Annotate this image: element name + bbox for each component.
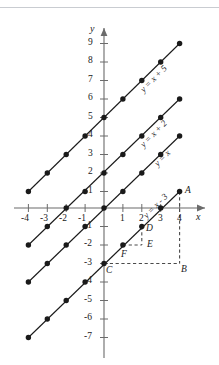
y-tick--2: -2 <box>84 239 92 249</box>
point-label-E: E <box>147 240 153 250</box>
coordinate-plane <box>0 0 219 365</box>
x-tick-4: 4 <box>177 214 182 224</box>
point-label-D: D <box>146 224 153 234</box>
point-label-C: C <box>106 266 112 276</box>
y-tick-6: 6 <box>88 93 93 103</box>
x-tick--4: -4 <box>21 214 29 224</box>
y-tick-1: 1 <box>88 186 93 196</box>
x-tick-1: 1 <box>120 214 125 224</box>
point-label-B: B <box>181 265 187 275</box>
y-tick-5: 5 <box>88 112 93 122</box>
y-axis-arrow <box>101 28 108 36</box>
x-axis-label: x <box>196 212 200 222</box>
x-tick-3: 3 <box>158 214 163 224</box>
point-label-F: F <box>121 250 127 260</box>
x-tick--2: -2 <box>59 214 67 224</box>
y-tick--1: -1 <box>84 221 92 231</box>
y-tick--7: -7 <box>84 332 92 342</box>
y-tick-9: 9 <box>88 38 93 48</box>
y-tick--4: -4 <box>84 276 92 286</box>
y-tick-8: 8 <box>88 56 93 66</box>
y-tick--3: -3 <box>84 258 92 268</box>
y-tick--5: -5 <box>84 295 92 305</box>
axes <box>14 28 205 358</box>
y-tick-2: 2 <box>88 167 93 177</box>
y-tick-3: 3 <box>88 149 93 159</box>
x-tick--3: -3 <box>40 214 48 224</box>
y-tick-7: 7 <box>88 75 93 85</box>
y-axis-label: y <box>90 24 94 34</box>
figure-canvas: x y -4 -3 -2 -1 1 2 3 4 9 8 7 6 5 4 3 2 … <box>0 0 219 365</box>
y-tick--6: -6 <box>84 313 92 323</box>
y-tick-4: 4 <box>88 130 93 140</box>
point-label-A: A <box>185 186 191 196</box>
